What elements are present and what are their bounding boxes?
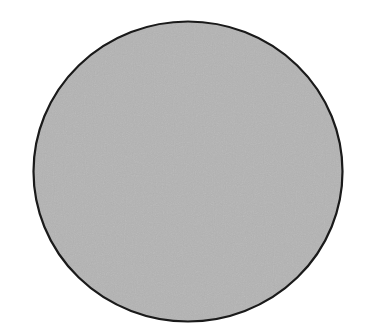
figure-canvas <box>0 0 367 334</box>
circle-figure <box>0 0 367 334</box>
gray-circle <box>34 22 343 322</box>
